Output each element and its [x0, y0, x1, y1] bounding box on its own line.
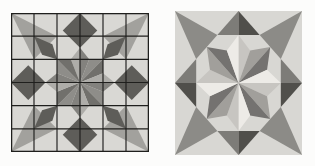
quilt-block-grid-design	[11, 13, 149, 152]
quilt-block-rendered-svg	[175, 11, 302, 155]
quilt-block-rendered	[175, 11, 302, 155]
quilt-block-grid-design-svg	[11, 13, 149, 152]
